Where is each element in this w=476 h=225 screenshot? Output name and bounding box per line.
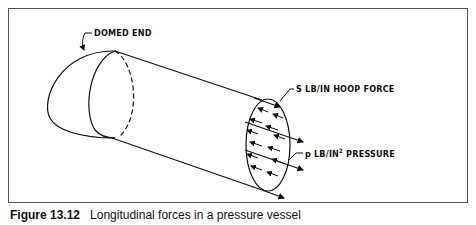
pressure-label: p LB/IN2 PRESSURE	[305, 147, 395, 159]
pressure-label-prefix: p LB/IN	[305, 149, 339, 159]
cylinder-bottom-edge	[112, 138, 262, 190]
domed-end-arc	[48, 51, 115, 138]
domed-end-leader	[83, 33, 92, 50]
pressure-label-suffix: PRESSURE	[343, 149, 395, 159]
pressure-leader	[289, 153, 303, 160]
figure-title: Longitudinal forces in a pressure vessel	[90, 208, 301, 222]
vessel-body	[48, 51, 290, 191]
dome-seam	[89, 51, 115, 138]
pressure-vessel-diagram: DOMED END S LB/IN HOOP FORCE p LB/IN2 PR…	[0, 0, 476, 225]
figure-number: Figure 13.12	[10, 208, 80, 222]
hoop-force-label: S LB/IN HOOP FORCE	[296, 84, 395, 94]
figure-caption: Figure 13.12Longitudinal forces in a pre…	[10, 208, 301, 222]
hoop-force-leader	[280, 89, 294, 101]
domed-end-label: DOMED END	[94, 28, 152, 38]
cylinder-top-edge	[115, 51, 262, 100]
cut-section-ellipse	[246, 99, 290, 191]
hoop-force-arrows	[245, 98, 303, 198]
dome-seam-hidden	[115, 51, 134, 136]
pressure-arrows	[247, 108, 285, 176]
